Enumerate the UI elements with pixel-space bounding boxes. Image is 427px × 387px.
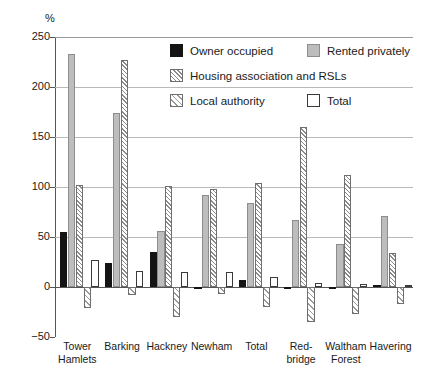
bar-owner (329, 287, 336, 289)
bar-total (181, 272, 188, 287)
bar-total (136, 271, 143, 287)
legend-item-rented[interactable]: Rented privately (307, 44, 410, 57)
y-tick-label-0: 0 (6, 281, 50, 292)
x-axis-tick-labels: Tower HamletsBarkingHackneyNewhamTotalRe… (55, 340, 413, 386)
legend-label: Housing association and RSLs (190, 70, 347, 82)
y-tick-0 (50, 287, 55, 288)
bar-total (315, 283, 322, 287)
x-tick-label: Hackney (145, 340, 190, 353)
y-axis-tick-labels: −50050100150200250 (0, 37, 50, 337)
bar-owner (105, 263, 112, 287)
bar-total (226, 272, 233, 287)
legend-label: Total (327, 95, 351, 107)
y-tick-250 (50, 37, 55, 38)
bar-rented (157, 231, 164, 287)
bar-owner (284, 287, 291, 289)
x-tick-label: Havering (368, 340, 413, 353)
bar-owner (373, 285, 380, 287)
bar-la (84, 287, 91, 308)
y-tick-label-250: 250 (6, 31, 50, 42)
legend-item-total[interactable]: Total (307, 94, 351, 107)
bar-rented (247, 203, 254, 287)
y-tick-50 (50, 237, 55, 238)
y-tick-200 (50, 87, 55, 88)
legend-swatch-la-icon (170, 94, 183, 107)
legend-swatch-ha-icon (170, 69, 183, 82)
bar-total (91, 260, 98, 287)
legend-label: Local authority (190, 95, 265, 107)
y-tick-100 (50, 187, 55, 188)
y-tick-label-50: 50 (6, 231, 50, 242)
bar-total (405, 285, 412, 287)
y-tick-150 (50, 137, 55, 138)
y-tick-label-150: 150 (6, 131, 50, 142)
x-tick-label: Total (234, 340, 279, 353)
y-tick-label-200: 200 (6, 81, 50, 92)
bar-rented (113, 113, 120, 287)
bar-ha (165, 186, 172, 287)
legend-swatch-total-icon (307, 94, 320, 107)
bar-rented (292, 220, 299, 287)
legend-swatch-rented-icon (307, 44, 320, 57)
bar-ha (255, 183, 262, 287)
bar-la (173, 287, 180, 317)
x-tick-label: Red- bridge (279, 340, 324, 365)
bar-rented (68, 54, 75, 287)
bar-ha (210, 189, 217, 287)
bar-la (128, 287, 135, 295)
bar-chart: % −50050100150200250 Tower HamletsBarkin… (0, 0, 427, 387)
bar-owner (150, 252, 157, 287)
bar-rented (202, 195, 209, 287)
x-tick-label: Barking (100, 340, 145, 353)
chart-legend: Owner occupiedRented privatelyHousing as… (170, 44, 412, 114)
legend-swatch-owner-icon (170, 44, 183, 57)
bar-ha (344, 175, 351, 287)
bar-ha (121, 60, 128, 287)
bar-la (352, 287, 359, 314)
bar-ha (76, 185, 83, 287)
legend-item-la[interactable]: Local authority (170, 94, 265, 107)
bar-group (105, 37, 143, 337)
bar-ha (389, 253, 396, 287)
bar-group (60, 37, 98, 337)
bar-owner (239, 280, 246, 287)
bar-la (307, 287, 314, 322)
bar-total (360, 284, 367, 287)
x-tick-label: Newham (189, 340, 234, 353)
gridline--50 (55, 337, 413, 338)
bar-total (270, 277, 277, 287)
bar-rented (381, 216, 388, 287)
legend-label: Owner occupied (190, 45, 273, 57)
x-tick-label: Waltham Forest (324, 340, 369, 365)
y-tick-label--50: −50 (6, 331, 50, 342)
x-tick-label: Tower Hamlets (55, 340, 100, 365)
legend-item-owner[interactable]: Owner occupied (170, 44, 273, 57)
bar-rented (336, 244, 343, 287)
bar-la (397, 287, 404, 304)
legend-label: Rented privately (327, 45, 410, 57)
bar-ha (300, 127, 307, 287)
bar-owner (194, 287, 201, 289)
bar-la (263, 287, 270, 307)
y-axis-unit-label: % (45, 12, 55, 24)
y-tick--50 (50, 337, 55, 338)
bar-owner (60, 232, 67, 287)
legend-item-ha[interactable]: Housing association and RSLs (170, 69, 347, 82)
y-tick-label-100: 100 (6, 181, 50, 192)
bar-la (218, 287, 225, 294)
